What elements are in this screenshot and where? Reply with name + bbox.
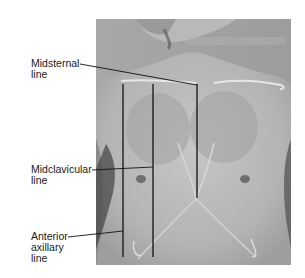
anterior-axillary-leader [68, 231, 123, 237]
anterior-axillary-label: Anterior axillary line [31, 231, 68, 264]
midclavicular-label: Midclavicular line [31, 164, 92, 186]
chest-reference-lines-figure: Midsternal line Midclavicular line Anter… [0, 0, 305, 278]
midsternal-leader [80, 64, 197, 85]
midsternal-label: Midsternal line [31, 58, 79, 80]
